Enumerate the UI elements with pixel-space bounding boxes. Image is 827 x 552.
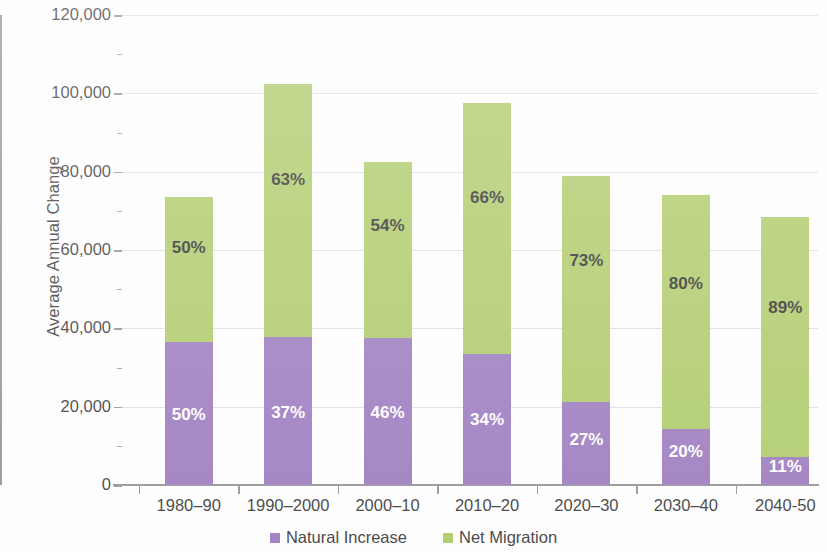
bar-label-natural-increase: 46% [364,403,412,423]
tick-mark [114,93,122,95]
bar-group: 34%66% [463,103,511,485]
legend-label: Net Migration [459,528,557,547]
bar-segment-natural-increase: 11% [761,457,809,485]
bar-group: 27%73% [562,176,610,485]
legend-swatch-icon [270,533,280,543]
bar-label-net-migration: 73% [562,251,610,271]
x-axis-tick [139,486,140,494]
legend-label: Natural Increase [286,528,407,547]
bar-group: 46%54% [364,162,412,485]
bar-group: 11%89% [761,217,809,485]
bar-segment-natural-increase: 37% [264,337,312,485]
x-axis-tick [636,486,637,494]
bar-segment-natural-increase: 46% [364,338,412,485]
y-axis-tick-label: 60,000 [0,240,111,259]
bar-segment-net-migration: 89% [761,217,809,457]
tick-mark [114,407,122,409]
y-axis-tick-label: 100,000 [0,83,111,102]
bar-segment-natural-increase: 27% [562,402,610,485]
y-axis-tick-label: 0 [0,475,111,494]
legend-item: Natural Increase [270,528,407,547]
bar-label-net-migration: 63% [264,170,312,190]
bar-segment-natural-increase: 34% [463,354,511,485]
bar-segment-natural-increase: 20% [662,429,710,485]
bar-label-natural-increase: 20% [662,442,710,462]
bar-group: 20%80% [662,195,710,485]
bar-group: 37%63% [264,84,312,485]
bar-segment-net-migration: 73% [562,176,610,402]
bar-segment-net-migration: 50% [165,197,213,342]
bar-label-net-migration: 54% [364,216,412,236]
bar-label-natural-increase: 34% [463,410,511,430]
x-axis-tick [238,486,239,494]
bar-segment-natural-increase: 50% [165,342,213,485]
tick-mark [114,328,122,330]
y-axis-line [0,15,2,485]
tick-mark [114,172,122,174]
legend-item: Net Migration [443,528,557,547]
stacked-bar-chart: Average Annual Change 020,00040,00060,00… [0,0,827,552]
bar-segment-net-migration: 80% [662,195,710,429]
bar-label-net-migration: 66% [463,188,511,208]
bar-group: 50%50% [165,197,213,485]
y-axis-tick-label: 120,000 [0,5,111,24]
chart-legend: Natural IncreaseNet Migration [0,528,827,547]
bar-segment-net-migration: 66% [463,103,511,354]
y-axis-tick-label: 80,000 [0,162,111,181]
plot-area: 50%50%37%63%46%54%34%66%27%73%20%80%11%8… [122,15,818,485]
x-axis-tick-label: 2040-50 [715,496,827,515]
x-axis-tick [537,486,538,494]
bar-label-net-migration: 50% [165,238,213,258]
bar-label-net-migration: 80% [662,274,710,294]
x-axis-tick [437,486,438,494]
x-axis-tick [338,486,339,494]
bar-label-natural-increase: 11% [761,457,809,477]
tick-mark [114,15,122,17]
bar-label-natural-increase: 27% [562,430,610,450]
x-axis-tick [736,486,737,494]
bar-label-net-migration: 89% [761,298,809,318]
bar-segment-net-migration: 54% [364,162,412,338]
y-axis-tick-label: 20,000 [0,397,111,416]
tick-mark [114,250,122,252]
bar-label-natural-increase: 37% [264,403,312,423]
y-axis-tick-label: 40,000 [0,318,111,337]
bar-label-natural-increase: 50% [165,405,213,425]
legend-swatch-icon [443,533,453,543]
bar-segment-net-migration: 63% [264,84,312,338]
